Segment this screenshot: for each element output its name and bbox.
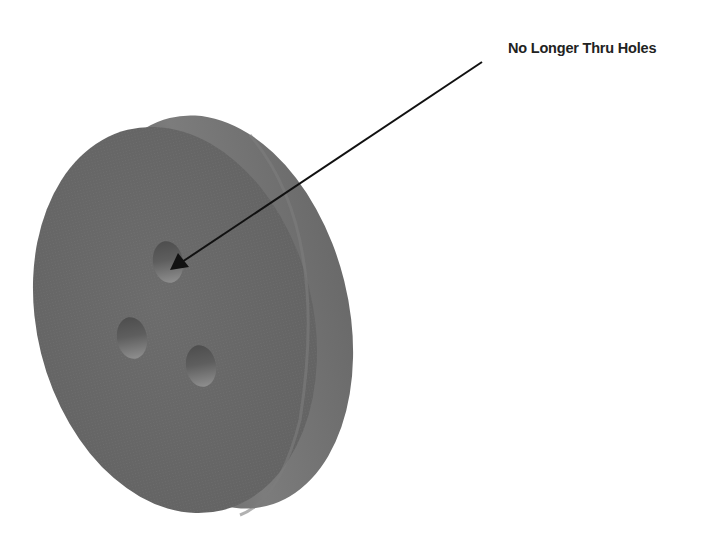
diagram-canvas: No Longer Thru Holes (0, 0, 728, 554)
callout-label: No Longer Thru Holes (508, 40, 656, 56)
disk-part-illustration (0, 0, 728, 554)
